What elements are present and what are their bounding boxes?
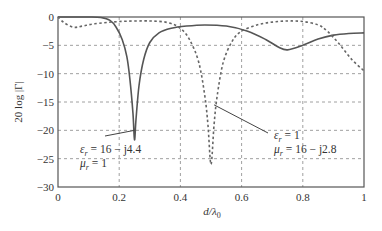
- annotation-leader-line: [214, 105, 268, 133]
- annotation-leader-line: [105, 130, 135, 136]
- annotation-line-2: μr = 1: [79, 157, 107, 172]
- x-tick-label: 0.8: [296, 191, 310, 203]
- x-axis-label: d/λ0: [203, 205, 220, 220]
- annotation-line-1: εr = 1: [274, 129, 300, 144]
- y-tick-labels: 0−5−10−15−20−25−30: [37, 11, 55, 193]
- x-tick-label: 0.4: [174, 191, 188, 203]
- annotation-line-2: μr = 16 − j2.8: [273, 143, 337, 158]
- y-tick-label: −20: [37, 124, 55, 136]
- annotation-line-1: εr = 16 − j4.4: [80, 143, 141, 158]
- y-tick-label: −25: [37, 153, 55, 165]
- x-tick-labels: 00.20.40.60.81: [55, 191, 367, 203]
- y-axis-label: 20 log |Γ|: [12, 81, 24, 122]
- y-tick-label: −5: [42, 39, 54, 51]
- x-tick-label: 0.2: [112, 191, 126, 203]
- series-line-eps: [58, 17, 364, 140]
- y-tick-label: −10: [37, 68, 55, 80]
- y-tick-label: −30: [37, 181, 55, 193]
- x-tick-label: 0.6: [235, 191, 249, 203]
- chart: 00.20.40.60.81 0−5−10−15−20−25−30 20 log…: [0, 0, 382, 231]
- y-tick-label: −15: [37, 96, 55, 108]
- x-tick-label: 0: [55, 191, 61, 203]
- y-tick-label: 0: [49, 11, 55, 23]
- x-tick-label: 1: [361, 191, 367, 203]
